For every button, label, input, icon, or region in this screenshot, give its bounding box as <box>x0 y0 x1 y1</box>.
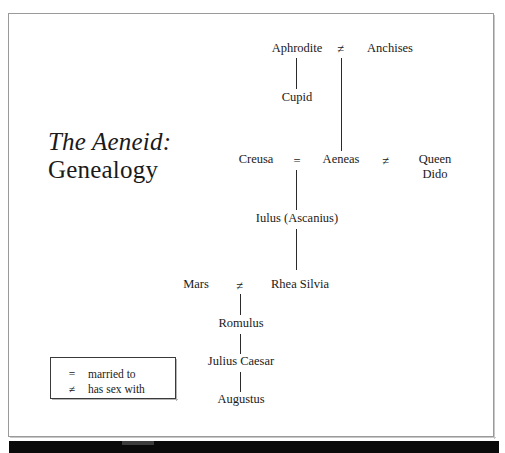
slide-title: The Aeneid: Genealogy <box>48 128 228 184</box>
slide-canvas: The Aeneid: Genealogy Aphrodite ≠ Anchis… <box>0 0 505 453</box>
node-mars: Mars <box>183 277 209 292</box>
node-augustus: Augustus <box>217 392 264 407</box>
node-cupid: Cupid <box>282 90 313 105</box>
node-queen-dido-line1: Queen <box>419 152 452 166</box>
edge-aphrodite-cupid <box>296 58 297 89</box>
legend-box-shadow-right <box>176 359 177 401</box>
node-creusa: Creusa <box>239 152 274 167</box>
node-queen-dido: Queen Dido <box>404 152 466 183</box>
node-iulus-ascanius: Iulus (Ascanius) <box>256 211 338 226</box>
legend-label-married-to: married to <box>88 369 136 381</box>
legend-label-has-sex-with: has sex with <box>88 384 145 396</box>
legend-symbol-not-equals: ≠ <box>65 384 79 396</box>
node-julius-caesar: Julius Caesar <box>208 354 274 369</box>
legend-box-shadow-bottom <box>52 399 178 400</box>
bottom-bar-notch <box>122 441 154 445</box>
relation-aphrodite-anchises: ≠ <box>338 43 345 56</box>
legend-symbol-equals: = <box>65 369 79 381</box>
node-aphrodite: Aphrodite <box>272 41 323 56</box>
slide-frame-shadow-bottom <box>10 437 496 438</box>
bottom-black-bar <box>9 441 499 453</box>
node-anchises: Anchises <box>367 41 413 56</box>
node-romulus: Romulus <box>218 316 263 331</box>
title-line-genealogy: Genealogy <box>48 156 228 184</box>
slide-frame-shadow-right <box>494 15 495 439</box>
edge-romulus-julius-caesar <box>240 334 241 354</box>
edge-creusa-aeneas-iulus <box>296 170 297 210</box>
node-rhea-silvia: Rhea Silvia <box>271 277 329 292</box>
node-queen-dido-line2: Dido <box>423 167 448 181</box>
edge-mars-rhea-romulus <box>240 294 241 315</box>
relation-aeneas-dido: ≠ <box>383 155 390 168</box>
title-line-aeneid: The Aeneid: <box>48 128 228 156</box>
node-aeneas: Aeneas <box>323 152 360 167</box>
relation-creusa-aeneas: = <box>293 155 300 168</box>
relation-mars-rhea-silvia: ≠ <box>237 280 244 293</box>
edge-julius-caesar-augustus <box>240 372 241 392</box>
edge-aphrodite-anchises-aeneas <box>341 58 342 151</box>
edge-iulus-rhea-silvia <box>296 229 297 270</box>
